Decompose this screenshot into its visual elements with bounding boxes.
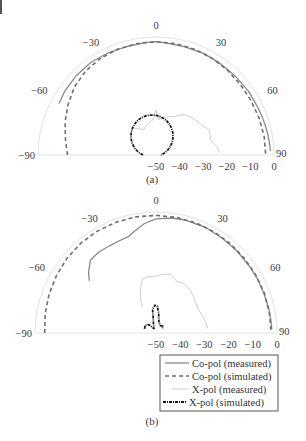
angle-tick-label: −90 <box>19 150 35 161</box>
angle-tick-label: −60 <box>31 85 47 96</box>
series-x-pol-simulated <box>131 115 173 155</box>
angle-tick-label: −30 <box>83 37 99 48</box>
outer-grid-arc <box>35 212 277 333</box>
outer-grid-arc <box>38 37 274 155</box>
radial-tick-label: −50 <box>148 339 164 350</box>
angle-tick-label: −60 <box>29 262 45 273</box>
angle-tick-label: 30 <box>217 213 228 224</box>
subplot-label: (b) <box>146 415 159 428</box>
radial-tick-label: 0 <box>274 339 279 350</box>
radial-tick-label: −20 <box>219 161 235 172</box>
polar-figure: −90−60−300306090−50−40−30−20−100(a) −90−… <box>0 0 306 441</box>
radial-tick-label: −30 <box>196 339 212 350</box>
radial-tick-label: −20 <box>220 339 236 350</box>
series-co-pol-measured <box>59 42 270 151</box>
legend-label: Co-pol (measured) <box>192 358 272 370</box>
angle-tick-label: −90 <box>16 328 32 339</box>
angle-tick-label: 30 <box>216 37 227 48</box>
angle-tick-label: 60 <box>267 85 278 96</box>
radial-tick-label: −40 <box>171 161 187 172</box>
angle-tick-label: 0 <box>153 20 158 31</box>
series-co-pol-simulated <box>65 42 266 155</box>
subplot-label: (a) <box>146 173 159 186</box>
angle-tick-label: 0 <box>153 195 158 206</box>
series-co-pol-measured <box>89 218 272 329</box>
legend-label: Co-pol (simulated) <box>192 371 272 383</box>
legend-label: X-pol (simulated) <box>189 397 264 409</box>
series-x-pol-simulated <box>145 305 163 329</box>
angle-tick-label: 60 <box>270 262 281 273</box>
radial-tick-label: −10 <box>245 339 261 350</box>
angle-tick-label: 90 <box>276 148 287 159</box>
radial-tick-label: −50 <box>148 161 164 172</box>
legend: Co-pol (measured) Co-pol (simulated) X-p… <box>160 355 278 411</box>
polar-chart-a: −90−60−300306090−50−40−30−20−100(a) <box>19 20 287 186</box>
angle-tick-label: 90 <box>279 326 290 337</box>
radial-tick-label: 0 <box>271 161 276 172</box>
series-x-pol-measured <box>140 274 208 328</box>
legend-label: X-pol (measured) <box>192 384 267 396</box>
radial-tick-label: −30 <box>195 161 211 172</box>
angle-tick-label: −30 <box>81 213 97 224</box>
radial-tick-label: −10 <box>242 161 258 172</box>
radial-tick-label: −40 <box>172 339 188 350</box>
